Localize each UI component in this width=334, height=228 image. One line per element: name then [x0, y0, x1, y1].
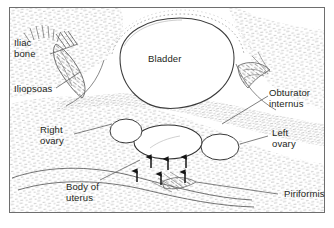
label-piriformis: Piriformis: [284, 189, 325, 200]
anatomy-figure: Iliac bone Iliopsoas Bladder Obturator i…: [0, 0, 334, 228]
label-iliac-bone: Iliac bone: [14, 38, 36, 59]
label-left-ovary: Left ovary: [272, 128, 296, 149]
left-ovary-oval: [201, 134, 239, 160]
label-iliopsoas: Iliopsoas: [14, 84, 52, 95]
leader-left-ovary: [240, 136, 268, 144]
right-ovary-oval: [110, 119, 142, 143]
label-obturator-internus: Obturator internus: [269, 88, 310, 109]
label-right-ovary: Right ovary: [40, 125, 64, 146]
uterus-body: [134, 125, 202, 159]
label-body-of-uterus: Body of uterus: [66, 182, 99, 203]
label-bladder: Bladder: [148, 54, 181, 65]
